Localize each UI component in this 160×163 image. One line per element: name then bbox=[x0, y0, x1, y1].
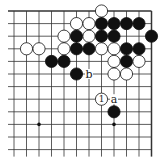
black-stone bbox=[145, 30, 157, 42]
move-number: 1 bbox=[99, 94, 105, 104]
white-stone bbox=[20, 43, 32, 55]
black-stone bbox=[83, 43, 95, 55]
star-point bbox=[112, 123, 116, 127]
black-stone bbox=[70, 30, 82, 42]
black-stone bbox=[120, 43, 132, 55]
black-stone bbox=[45, 55, 57, 67]
white-stone bbox=[108, 68, 120, 80]
black-stone bbox=[108, 18, 120, 30]
black-stone bbox=[95, 30, 107, 42]
star-point bbox=[37, 123, 41, 127]
black-stone bbox=[120, 18, 132, 30]
white-stone bbox=[70, 18, 82, 30]
black-stone bbox=[108, 30, 120, 42]
white-stone bbox=[95, 43, 107, 55]
black-stone bbox=[120, 55, 132, 67]
white-stone: 1 bbox=[95, 93, 107, 105]
point-label-a: a bbox=[111, 93, 118, 106]
black-stone bbox=[58, 55, 70, 67]
white-stone bbox=[58, 30, 70, 42]
black-stone bbox=[108, 106, 120, 118]
white-stone bbox=[120, 68, 132, 80]
white-stone bbox=[133, 55, 145, 67]
white-stone bbox=[95, 5, 107, 17]
black-stone bbox=[70, 68, 82, 80]
white-stone bbox=[83, 18, 95, 30]
go-board-diagram: 1 ba bbox=[0, 0, 160, 163]
black-stone bbox=[133, 18, 145, 30]
white-stone bbox=[108, 55, 120, 67]
black-stone bbox=[133, 43, 145, 55]
black-stone bbox=[70, 43, 82, 55]
black-stone bbox=[95, 18, 107, 30]
white-stone bbox=[83, 30, 95, 42]
point-label-b: b bbox=[85, 68, 92, 81]
white-stone bbox=[58, 43, 70, 55]
white-stone bbox=[108, 43, 120, 55]
white-stone bbox=[33, 43, 45, 55]
